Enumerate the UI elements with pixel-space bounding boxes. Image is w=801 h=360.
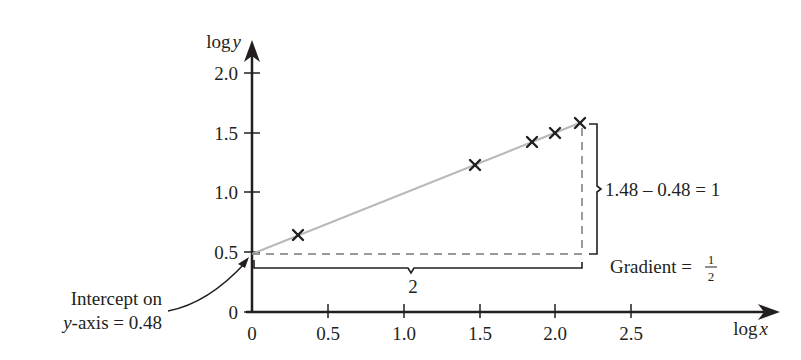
y-tick-0: 0 <box>229 302 239 323</box>
run-label: 2 <box>408 276 418 297</box>
x-tick-0-5: 0.5 <box>316 323 340 344</box>
gradient-label: Gradient = <box>610 256 692 277</box>
svg-text:2: 2 <box>708 269 715 284</box>
rise-label: 1.48 – 0.48 = 1 <box>605 179 720 200</box>
y-tick-2-0: 2.0 <box>214 63 238 84</box>
svg-text:1: 1 <box>708 252 715 267</box>
y-axis: 0 0.5 1.0 1.5 2.0 logy <box>206 31 260 323</box>
intercept-label-line2: y-axis = 0.48 <box>61 312 162 333</box>
gradient-fraction: 1 2 <box>705 252 717 284</box>
data-point-marker-icon <box>470 160 480 170</box>
y-axis-title: logy <box>206 31 241 52</box>
data-point-marker-icon <box>575 118 585 128</box>
intercept-label-line1: Intercept on <box>71 288 163 309</box>
rise-brace <box>589 124 601 254</box>
x-tick-0: 0 <box>247 323 257 344</box>
data-point-marker-icon <box>527 137 537 147</box>
log-log-graph: 0 0.5 1.0 1.5 2.0 logy 0 0.5 1.0 1.5 2.0… <box>0 0 801 360</box>
data-point-marker-icon <box>550 128 560 138</box>
x-tick-2-5: 2.5 <box>619 323 643 344</box>
run-brace <box>254 260 582 273</box>
intercept-arrow-head-icon <box>238 257 249 268</box>
y-tick-1-5: 1.5 <box>214 123 238 144</box>
x-axis: 0 0.5 1.0 1.5 2.0 2.5 logx <box>246 304 780 344</box>
x-axis-title: logx <box>733 318 768 339</box>
y-tick-1-0: 1.0 <box>214 182 238 203</box>
x-tick-1-5: 1.5 <box>468 323 492 344</box>
y-tick-0-5: 0.5 <box>214 242 238 263</box>
x-tick-2-0: 2.0 <box>543 323 567 344</box>
x-tick-1-0: 1.0 <box>392 323 416 344</box>
